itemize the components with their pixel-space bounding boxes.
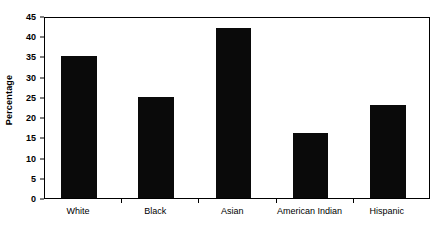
x-axis-category-labels: WhiteBlackAsianAmerican IndianHispanic <box>44 206 430 224</box>
y-axis-tick-label: 40 <box>26 32 36 42</box>
y-axis-tick-label: 15 <box>26 133 36 143</box>
bar <box>293 133 329 198</box>
y-axis-tick-label: 25 <box>26 93 36 103</box>
y-axis-tick-label: 45 <box>26 12 36 22</box>
x-axis-category-label: Asian <box>221 206 244 216</box>
y-axis-tick-label: 20 <box>26 113 36 123</box>
y-axis-title-label: Percentage <box>4 75 14 126</box>
y-axis-tick-label: 5 <box>31 174 36 184</box>
x-axis-category-label: White <box>66 206 89 216</box>
bar <box>370 105 406 198</box>
y-axis-tick-labels: 051015202530354045 <box>18 17 40 199</box>
x-axis-tick-mark <box>198 199 199 203</box>
bars-layer <box>45 18 429 198</box>
y-axis-tick-label: 10 <box>26 154 36 164</box>
x-axis-category-label: Hispanic <box>370 206 405 216</box>
y-axis-title: Percentage <box>0 0 18 200</box>
plot-area <box>44 17 430 199</box>
x-axis-tick-mark <box>353 199 354 203</box>
y-axis-tick-label: 35 <box>26 52 36 62</box>
bar <box>61 56 97 198</box>
x-axis-tick-marks <box>44 199 430 204</box>
y-axis-tick-label: 30 <box>26 73 36 83</box>
y-axis-tick-label: 0 <box>31 194 36 204</box>
bar-chart: Percentage 051015202530354045 WhiteBlack… <box>0 0 446 236</box>
bar <box>138 97 174 198</box>
x-axis-category-label: American Indian <box>277 206 342 216</box>
x-axis-tick-mark <box>276 199 277 203</box>
x-axis-category-label: Black <box>144 206 166 216</box>
x-axis-tick-mark <box>121 199 122 203</box>
bar <box>216 28 252 198</box>
